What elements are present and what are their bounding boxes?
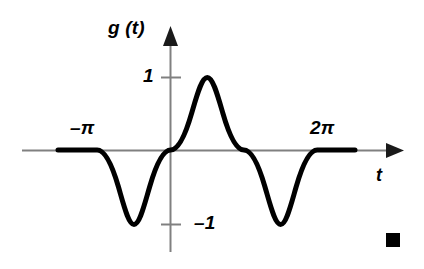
y-tick-label-minus-one: –1	[194, 213, 216, 232]
y-axis-arrow-icon	[163, 26, 178, 46]
x-axis-label: t	[376, 166, 382, 184]
x-axis-arrow-icon	[386, 143, 404, 158]
figure-container: g (t) t 1 –1 –π 2π	[0, 0, 424, 269]
end-of-proof-square-icon	[386, 233, 400, 247]
x-tick-label-minus-pi: –π	[70, 118, 95, 137]
x-tick-label-two-pi: 2π	[310, 118, 335, 137]
y-tick-label-one: 1	[143, 66, 154, 85]
y-axis-label: g (t)	[108, 18, 145, 37]
